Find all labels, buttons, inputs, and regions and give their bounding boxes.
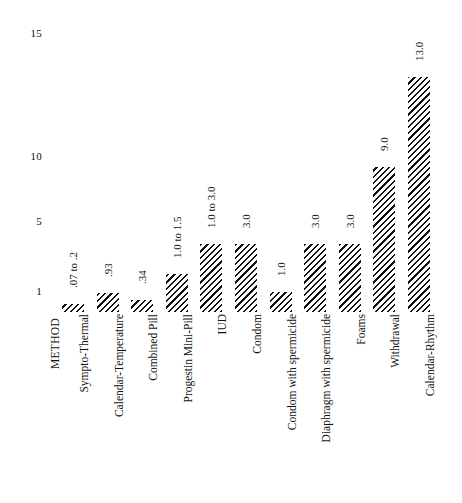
bar <box>200 244 222 312</box>
category-axis: Sympto-ThermalCalendar-TemperatureCombin… <box>60 314 456 494</box>
bar-column: .34 <box>131 20 153 312</box>
category-label: Diaphragm with spermicide <box>321 314 333 442</box>
bar <box>408 77 430 312</box>
category-label: Foams <box>356 314 368 345</box>
category-label: Sympto-Thermal <box>79 314 91 393</box>
y-axis-tick-label: 5 <box>8 216 42 227</box>
bar-value-label: 3.0 <box>310 214 321 228</box>
plot-area: .07 to .2.93.341.0 to 1.51.0 to 3.03.01.… <box>60 20 456 312</box>
bar-column: 9.0 <box>373 20 395 312</box>
category-label: Condom with spermicide <box>286 314 298 430</box>
x-axis-title: METHOD <box>50 318 62 369</box>
category-label: Calendar-Rhythm <box>425 314 437 396</box>
bar <box>373 167 395 312</box>
bar-chart: 151015 .07 to .2.93.341.0 to 1.51.0 to 3… <box>0 0 462 503</box>
bar-value-label: 13.0 <box>414 42 425 61</box>
y-axis-tick-label: 15 <box>8 28 42 39</box>
bar <box>62 304 84 312</box>
bar <box>166 274 188 312</box>
bar-column: .07 to .2 <box>62 20 84 312</box>
bar-value-label: .07 to .2 <box>68 252 79 288</box>
bar-value-label: 1.0 <box>275 262 286 276</box>
bar-column: 13.0 <box>408 20 430 312</box>
bar <box>131 300 153 312</box>
bar-column: .93 <box>97 20 119 312</box>
bar <box>235 244 257 312</box>
bar-column: 3.0 <box>304 20 326 312</box>
bar-value-label: 1.0 to 3.0 <box>206 187 217 229</box>
bar <box>97 293 119 312</box>
category-label: Combined Pill <box>148 314 160 381</box>
bar-column: 3.0 <box>339 20 361 312</box>
category-label: Withdrawal <box>390 314 402 368</box>
bar <box>339 244 361 312</box>
bar-column: 1.0 <box>270 20 292 312</box>
category-label: Calendar-Temperature <box>113 314 125 417</box>
bar-column: 1.0 to 1.5 <box>166 20 188 312</box>
y-axis-tick-label: 10 <box>8 151 42 162</box>
category-label: Condom <box>252 314 264 354</box>
bar <box>270 292 292 312</box>
bar-value-label: 1.0 to 1.5 <box>171 217 182 259</box>
bar <box>304 244 326 312</box>
bar-value-label: 3.0 <box>241 214 252 228</box>
bar-value-label: 3.0 <box>344 214 355 228</box>
bar-column: 3.0 <box>235 20 257 312</box>
category-label: Progestin Mini-Pill <box>183 314 195 403</box>
category-label: IUD <box>217 314 229 334</box>
y-axis-tick-label: 1 <box>8 286 42 297</box>
bar-value-label: .93 <box>102 263 113 277</box>
bar-column: 1.0 to 3.0 <box>200 20 222 312</box>
bar-value-label: 9.0 <box>379 137 390 151</box>
bar-value-label: .34 <box>137 270 148 284</box>
